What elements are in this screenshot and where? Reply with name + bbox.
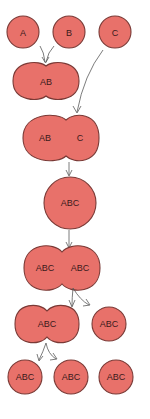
cell-abc-dividing-2: ABC [15, 305, 79, 342]
split-arrow-1 [69, 288, 90, 307]
cell-c: C [99, 16, 131, 48]
cell-abc-dividing: ABC ABC [24, 246, 100, 290]
cell-abc-final-2: ABC [54, 360, 88, 394]
cell-b-label: B [66, 28, 72, 38]
cell-ab-part-label: AB [39, 133, 51, 143]
final-1-label: ABC [16, 372, 35, 382]
cell-a-label: A [20, 28, 26, 38]
dividing-left-label: ABC [36, 263, 55, 273]
cell-abc-final-3: ABC [99, 360, 133, 394]
cell-ab-c: AB C [23, 115, 99, 160]
final-2-label: ABC [62, 372, 81, 382]
cell-abc-final-1: ABC [8, 360, 42, 394]
merge-arrow-ab [40, 46, 54, 63]
arrow-to-division [66, 230, 72, 248]
cell-abc-label: ABC [61, 198, 80, 208]
dividing-right-label: ABC [71, 263, 90, 273]
cell-abc-daughter-right: ABC [92, 307, 126, 341]
cell-a: A [7, 16, 39, 48]
cell-ab: AB [13, 63, 79, 100]
cell-ab-label: AB [40, 77, 52, 87]
dividing-2-label: ABC [38, 319, 57, 329]
arrow-to-abc [66, 162, 72, 176]
daughter-right-label: ABC [100, 319, 119, 329]
cell-c-label: C [112, 28, 119, 38]
cell-b: B [53, 16, 85, 48]
fusion-diagram: A B C AB AB C ABC [0, 0, 150, 419]
final-3-label: ABC [107, 372, 126, 382]
cell-c-part-label: C [77, 133, 84, 143]
cell-abc-fused: ABC [44, 177, 96, 229]
split-arrow-2 [37, 343, 57, 361]
